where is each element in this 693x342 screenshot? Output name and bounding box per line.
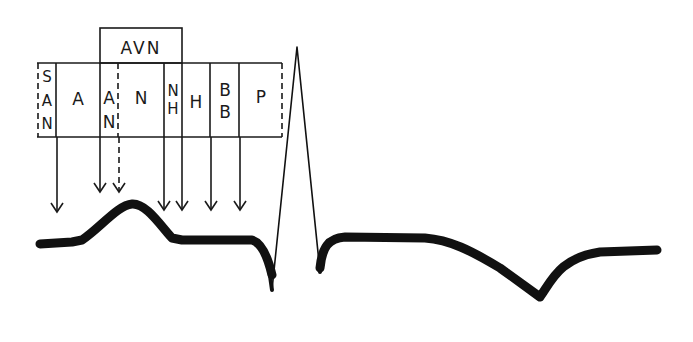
label-san-2: A <box>42 92 53 110</box>
arrow-an-dashed <box>113 137 125 192</box>
label-san-3: N <box>41 115 52 133</box>
arrow-n <box>158 137 170 210</box>
arrow-an-solid <box>94 137 106 192</box>
label-p: P <box>256 87 266 107</box>
label-bb-1: B <box>219 80 231 100</box>
arrow-san <box>51 137 63 212</box>
label-an-1: A <box>103 88 115 108</box>
label-an-2: N <box>103 112 116 132</box>
label-san-1: S <box>42 68 52 86</box>
arrow-h <box>205 137 217 210</box>
label-nh-2: H <box>167 100 178 118</box>
label-nh-1: N <box>167 82 178 100</box>
ecg-waveform <box>40 47 657 297</box>
label-h: H <box>190 92 203 112</box>
arrow-bb <box>234 137 246 210</box>
label-bb-2: B <box>219 102 231 122</box>
arrow-nh <box>176 137 188 210</box>
conduction-diagram: AVN S A N A A N N N H H B B P <box>0 0 693 342</box>
avn-label: AVN <box>121 38 162 58</box>
label-a: A <box>72 89 84 109</box>
label-n: N <box>135 88 148 108</box>
